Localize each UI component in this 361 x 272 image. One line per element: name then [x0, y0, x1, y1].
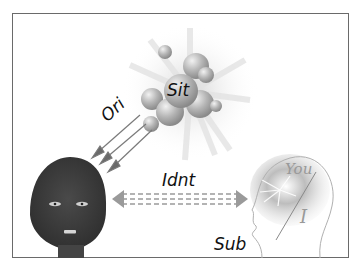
label-subject: Sub: [214, 236, 246, 253]
mouth: [64, 230, 76, 234]
identity-arrow: [112, 190, 248, 208]
diagram-canvas: [0, 0, 361, 272]
label-identity: Idnt: [162, 172, 195, 189]
dark-head: [30, 157, 106, 258]
label-you: You: [285, 162, 312, 177]
label-i: I: [300, 208, 307, 226]
label-situation: Sit: [167, 82, 189, 99]
